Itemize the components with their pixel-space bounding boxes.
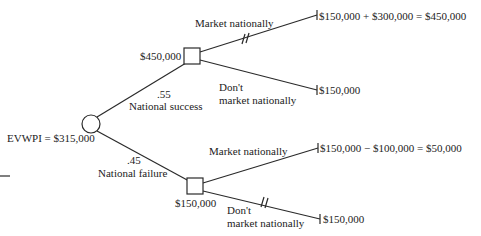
- decision-node-upper: [184, 48, 200, 64]
- success-label: National success: [129, 100, 203, 112]
- evwpi-label: EVWPI = $315,000: [7, 132, 95, 144]
- upper-market-label: Market nationally: [195, 17, 274, 29]
- decision-tree-diagram: EVWPI = $315,000 $450,000 .55 National s…: [0, 0, 481, 236]
- lower-market-label: Market nationally: [209, 145, 288, 157]
- upper-dont-line1: Don't: [219, 81, 243, 93]
- failure-label: National failure: [98, 167, 167, 179]
- decision-node-lower: [187, 178, 203, 194]
- payoff-2: $150,000: [319, 84, 361, 96]
- lower-dont-line2: market nationally: [227, 217, 305, 229]
- payoff-1: $150,000 + $300,000 = $450,000: [319, 10, 467, 22]
- lower-dont-line1: Don't: [227, 204, 251, 216]
- upper-dont-line2: market nationally: [219, 94, 297, 106]
- success-probability: .55: [157, 88, 171, 100]
- prune-mark-upper: [242, 33, 249, 44]
- lower-node-value: $150,000: [175, 197, 217, 209]
- chance-node-circle: [82, 115, 100, 133]
- branch-upper-dont-market: [200, 60, 317, 90]
- failure-probability: .45: [127, 154, 141, 166]
- payoff-3: $150,000 − $100,000 = $50,000: [320, 142, 462, 154]
- upper-node-value: $450,000: [140, 50, 182, 62]
- payoff-4: $150,000: [323, 213, 365, 225]
